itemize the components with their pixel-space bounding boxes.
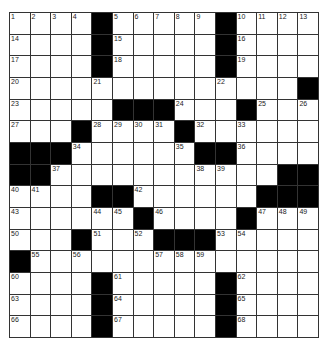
- grid-cell[interactable]: 11: [257, 13, 277, 34]
- grid-cell[interactable]: 34: [72, 143, 92, 164]
- grid-cell[interactable]: [237, 165, 257, 186]
- grid-cell[interactable]: [154, 56, 174, 77]
- grid-cell[interactable]: 65: [237, 295, 257, 316]
- grid-cell[interactable]: [298, 143, 318, 164]
- grid-cell[interactable]: [175, 186, 195, 207]
- grid-cell[interactable]: [72, 35, 92, 56]
- grid-cell[interactable]: 59: [195, 251, 215, 272]
- grid-cell[interactable]: [257, 295, 277, 316]
- grid-cell[interactable]: [92, 251, 112, 272]
- grid-cell[interactable]: 47: [257, 208, 277, 229]
- grid-cell[interactable]: [216, 100, 236, 121]
- grid-cell[interactable]: [31, 273, 51, 294]
- grid-cell[interactable]: [195, 100, 215, 121]
- grid-cell[interactable]: [195, 78, 215, 99]
- grid-cell[interactable]: 6: [134, 13, 154, 34]
- grid-cell[interactable]: [278, 295, 298, 316]
- grid-cell[interactable]: [51, 251, 71, 272]
- grid-cell[interactable]: 58: [175, 251, 195, 272]
- grid-cell[interactable]: [175, 273, 195, 294]
- grid-cell[interactable]: [298, 316, 318, 337]
- grid-cell[interactable]: 16: [237, 35, 257, 56]
- grid-cell[interactable]: [175, 295, 195, 316]
- grid-cell[interactable]: [257, 121, 277, 142]
- grid-cell[interactable]: [134, 78, 154, 99]
- grid-cell[interactable]: [72, 100, 92, 121]
- grid-cell[interactable]: [134, 56, 154, 77]
- grid-cell[interactable]: [31, 35, 51, 56]
- grid-cell[interactable]: [31, 295, 51, 316]
- grid-cell[interactable]: [278, 251, 298, 272]
- grid-cell[interactable]: 25: [257, 100, 277, 121]
- grid-cell[interactable]: [31, 56, 51, 77]
- grid-cell[interactable]: [216, 251, 236, 272]
- grid-cell[interactable]: [298, 295, 318, 316]
- grid-cell[interactable]: [31, 230, 51, 251]
- grid-cell[interactable]: 15: [113, 35, 133, 56]
- grid-cell[interactable]: [72, 186, 92, 207]
- grid-cell[interactable]: [51, 273, 71, 294]
- grid-cell[interactable]: [195, 316, 215, 337]
- grid-cell[interactable]: [72, 165, 92, 186]
- grid-cell[interactable]: [278, 230, 298, 251]
- grid-cell[interactable]: 53: [216, 230, 236, 251]
- grid-cell[interactable]: [257, 273, 277, 294]
- grid-cell[interactable]: 1: [10, 13, 30, 34]
- grid-cell[interactable]: [134, 35, 154, 56]
- grid-cell[interactable]: [175, 316, 195, 337]
- grid-cell[interactable]: [72, 56, 92, 77]
- grid-cell[interactable]: [298, 230, 318, 251]
- grid-cell[interactable]: [31, 316, 51, 337]
- grid-cell[interactable]: 60: [10, 273, 30, 294]
- grid-cell[interactable]: 29: [113, 121, 133, 142]
- grid-cell[interactable]: [257, 35, 277, 56]
- grid-cell[interactable]: [134, 316, 154, 337]
- grid-cell[interactable]: 62: [237, 273, 257, 294]
- grid-cell[interactable]: [278, 273, 298, 294]
- grid-cell[interactable]: [154, 165, 174, 186]
- grid-cell[interactable]: [195, 186, 215, 207]
- grid-cell[interactable]: [175, 208, 195, 229]
- grid-cell[interactable]: [31, 208, 51, 229]
- grid-cell[interactable]: [51, 35, 71, 56]
- grid-cell[interactable]: 67: [113, 316, 133, 337]
- grid-cell[interactable]: 7: [154, 13, 174, 34]
- grid-cell[interactable]: [154, 186, 174, 207]
- grid-cell[interactable]: 4: [72, 13, 92, 34]
- grid-cell[interactable]: [92, 143, 112, 164]
- grid-cell[interactable]: [278, 100, 298, 121]
- grid-cell[interactable]: [298, 35, 318, 56]
- grid-cell[interactable]: 18: [113, 56, 133, 77]
- grid-cell[interactable]: [51, 186, 71, 207]
- grid-cell[interactable]: [195, 35, 215, 56]
- grid-cell[interactable]: [154, 295, 174, 316]
- grid-cell[interactable]: [31, 121, 51, 142]
- grid-cell[interactable]: 56: [72, 251, 92, 272]
- grid-cell[interactable]: [298, 56, 318, 77]
- grid-cell[interactable]: [278, 143, 298, 164]
- grid-cell[interactable]: 32: [195, 121, 215, 142]
- grid-cell[interactable]: [216, 121, 236, 142]
- grid-cell[interactable]: 24: [175, 100, 195, 121]
- grid-cell[interactable]: [51, 78, 71, 99]
- grid-cell[interactable]: [298, 121, 318, 142]
- grid-cell[interactable]: [72, 316, 92, 337]
- grid-cell[interactable]: [175, 78, 195, 99]
- grid-cell[interactable]: 35: [175, 143, 195, 164]
- grid-cell[interactable]: [257, 143, 277, 164]
- grid-cell[interactable]: [154, 316, 174, 337]
- grid-cell[interactable]: 22: [216, 78, 236, 99]
- grid-cell[interactable]: [278, 316, 298, 337]
- grid-cell[interactable]: 55: [31, 251, 51, 272]
- grid-cell[interactable]: [154, 273, 174, 294]
- grid-cell[interactable]: [278, 56, 298, 77]
- grid-cell[interactable]: 43: [10, 208, 30, 229]
- grid-cell[interactable]: [51, 100, 71, 121]
- grid-cell[interactable]: [72, 295, 92, 316]
- grid-cell[interactable]: 23: [10, 100, 30, 121]
- grid-cell[interactable]: [134, 273, 154, 294]
- grid-cell[interactable]: [113, 165, 133, 186]
- grid-cell[interactable]: [113, 251, 133, 272]
- grid-cell[interactable]: [51, 121, 71, 142]
- grid-cell[interactable]: 9: [195, 13, 215, 34]
